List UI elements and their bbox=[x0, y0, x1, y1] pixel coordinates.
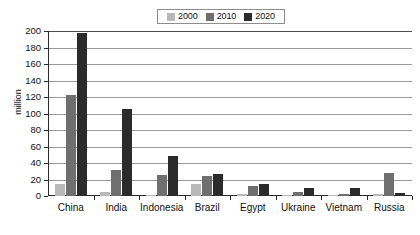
bar-groups bbox=[48, 31, 412, 196]
bar-vietnam-2010 bbox=[339, 194, 349, 196]
legend-swatch-2010 bbox=[206, 13, 214, 21]
bar-brazil-2020 bbox=[213, 174, 223, 196]
bar-india-2020 bbox=[122, 109, 132, 196]
y-axis-title: million bbox=[13, 72, 23, 132]
bar-ukraine-2000 bbox=[282, 195, 292, 196]
y-tick-label-140: 140 bbox=[25, 76, 41, 86]
legend-entry-2000: 2000 bbox=[167, 12, 198, 21]
bar-egypt-2020 bbox=[259, 184, 269, 196]
y-tick-label-80: 80 bbox=[30, 125, 41, 135]
bar-ukraine-2010 bbox=[293, 192, 303, 196]
y-tick-label-0: 0 bbox=[36, 191, 41, 201]
bar-group-indonesia bbox=[139, 31, 185, 196]
y-tick-label-60: 60 bbox=[30, 142, 41, 152]
bar-group-brazil bbox=[185, 31, 231, 196]
y-tick-label-40: 40 bbox=[30, 158, 41, 168]
bar-russia-2020 bbox=[395, 193, 405, 196]
bar-chart-figure: 200020102020 million 2001801601401201008… bbox=[0, 0, 420, 235]
bar-russia-2000 bbox=[373, 194, 383, 196]
x-tick-mark-8 bbox=[412, 196, 413, 200]
x-tick-mark-1 bbox=[94, 196, 95, 200]
x-axis-label-vietnam: Vietnam bbox=[325, 202, 362, 213]
bar-indonesia-2010 bbox=[157, 175, 167, 196]
x-tick-mark-2 bbox=[139, 196, 140, 200]
y-tick-label-20: 20 bbox=[30, 175, 41, 185]
plot-area: 200180160140120100806040200 ChinaIndiaIn… bbox=[48, 31, 412, 196]
bar-group-russia bbox=[367, 31, 413, 196]
bar-ukraine-2020 bbox=[304, 188, 314, 196]
bar-group-china bbox=[48, 31, 94, 196]
legend-label-2020: 2020 bbox=[255, 12, 275, 21]
legend-label-2010: 2010 bbox=[217, 12, 237, 21]
bar-china-2000 bbox=[55, 184, 65, 196]
y-tick-label-120: 120 bbox=[25, 92, 41, 102]
bar-egypt-2000 bbox=[237, 194, 247, 196]
x-axis-label-russia: Russia bbox=[374, 202, 405, 213]
bar-egypt-2010 bbox=[248, 186, 258, 196]
bar-group-egypt bbox=[230, 31, 276, 196]
x-axis-label-indonesia: Indonesia bbox=[140, 202, 183, 213]
x-axis-label-brazil: Brazil bbox=[195, 202, 220, 213]
x-tick-mark-6 bbox=[321, 196, 322, 200]
bar-brazil-2000 bbox=[191, 184, 201, 196]
bar-group-ukraine bbox=[276, 31, 322, 196]
bar-vietnam-2000 bbox=[328, 195, 338, 196]
bar-indonesia-2000 bbox=[146, 195, 156, 196]
bar-group-india bbox=[94, 31, 140, 196]
legend-swatch-2020 bbox=[244, 13, 252, 21]
bar-group-vietnam bbox=[321, 31, 367, 196]
x-axis-label-china: China bbox=[58, 202, 84, 213]
y-tick-mark-0 bbox=[44, 196, 48, 197]
y-tick-label-180: 180 bbox=[25, 43, 41, 53]
legend-swatch-2000 bbox=[167, 13, 175, 21]
x-axis-label-egypt: Egypt bbox=[240, 202, 266, 213]
legend-label-2000: 2000 bbox=[178, 12, 198, 21]
y-tick-label-200: 200 bbox=[25, 26, 41, 36]
bar-brazil-2010 bbox=[202, 176, 212, 196]
x-tick-mark-7 bbox=[367, 196, 368, 200]
bar-china-2020 bbox=[77, 33, 87, 196]
y-tick-label-100: 100 bbox=[25, 109, 41, 119]
bar-india-2010 bbox=[111, 170, 121, 196]
x-tick-mark-5 bbox=[276, 196, 277, 200]
x-axis-label-ukraine: Ukraine bbox=[281, 202, 315, 213]
bar-russia-2010 bbox=[384, 173, 394, 196]
bar-vietnam-2020 bbox=[350, 188, 360, 196]
y-tick-label-160: 160 bbox=[25, 59, 41, 69]
bar-india-2000 bbox=[100, 192, 110, 196]
legend-entry-2010: 2010 bbox=[206, 12, 237, 21]
legend-entry-2020: 2020 bbox=[244, 12, 275, 21]
bar-indonesia-2020 bbox=[168, 156, 178, 196]
bar-china-2010 bbox=[66, 95, 76, 196]
chart-legend: 200020102020 bbox=[157, 9, 285, 24]
x-axis-label-india: India bbox=[105, 202, 127, 213]
x-tick-mark-3 bbox=[185, 196, 186, 200]
x-tick-mark-4 bbox=[230, 196, 231, 200]
